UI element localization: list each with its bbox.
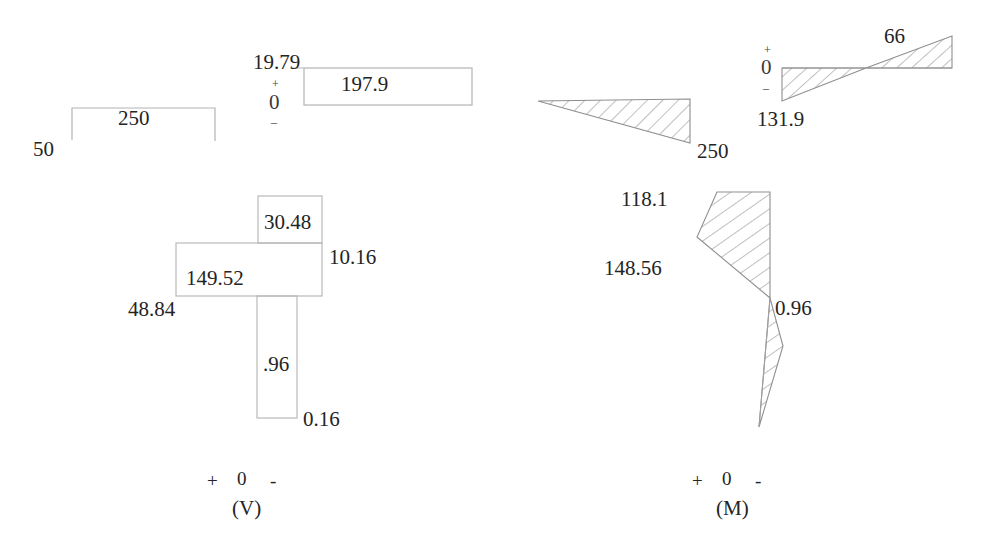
axis-sign-plus-moment: + bbox=[692, 471, 703, 490]
top-right-moment-triangle-shape bbox=[538, 99, 690, 143]
axis-sign-minus-shear: - bbox=[270, 471, 276, 490]
label-far-right-66: 66 bbox=[884, 26, 905, 47]
axis-sign-plus-top-middle: + bbox=[272, 78, 279, 90]
label-moment-118-1: 118.1 bbox=[621, 189, 667, 210]
axis-sign-minus-far-right: – bbox=[763, 82, 769, 94]
moment-diagram-shape bbox=[697, 192, 783, 427]
label-top-left-250: 250 bbox=[118, 108, 150, 129]
label-top-right-250: 250 bbox=[697, 141, 729, 162]
axis-sign-zero-top-middle: 0 bbox=[269, 92, 280, 113]
label-shear-30-48: 30.48 bbox=[264, 212, 311, 233]
label-top-middle-19-79: 19.79 bbox=[253, 52, 300, 73]
label-moment-0-96: 0.96 bbox=[775, 298, 812, 319]
diagram-canvas: 50 250 19.79 197.9 + 0 – 250 66 131.9 + … bbox=[0, 0, 992, 549]
caption-moment-diagram: (M) bbox=[716, 498, 749, 519]
diagram-vector-layer bbox=[0, 0, 992, 549]
axis-sign-zero-shear: 0 bbox=[237, 469, 247, 488]
axis-sign-zero-far-right: 0 bbox=[761, 57, 772, 78]
label-shear-48-84: 48.84 bbox=[128, 299, 175, 320]
axis-sign-minus-moment: - bbox=[755, 471, 761, 490]
label-shear-149-52: 149.52 bbox=[186, 268, 244, 289]
label-moment-148-56: 148.56 bbox=[604, 258, 662, 279]
caption-shear-diagram: (V) bbox=[232, 498, 261, 519]
axis-sign-zero-moment: 0 bbox=[722, 469, 732, 488]
label-shear-10-16: 10.16 bbox=[329, 247, 376, 268]
label-top-middle-197-9: 197.9 bbox=[341, 74, 388, 95]
label-top-left-50: 50 bbox=[33, 139, 54, 160]
label-shear-0-96: .96 bbox=[263, 354, 289, 375]
axis-sign-minus-top-middle: – bbox=[271, 116, 277, 128]
label-shear-0-16: 0.16 bbox=[303, 409, 340, 430]
label-far-right-131-9: 131.9 bbox=[757, 109, 804, 130]
far-right-moment-shape bbox=[782, 36, 952, 101]
axis-sign-plus-shear: + bbox=[207, 471, 218, 490]
